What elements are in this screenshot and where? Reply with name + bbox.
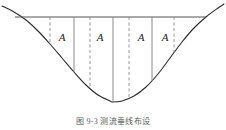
measurement-verticals-group	[50, 17, 174, 102]
figure-caption: 图 9-3 测流垂线布设	[0, 117, 226, 127]
area-label-seg4: A	[158, 32, 172, 43]
figure-container: AAAA 图 9-3 测流垂线布设	[0, 0, 226, 130]
area-label-seg1: A	[55, 32, 69, 43]
area-label-seg2: A	[93, 32, 107, 43]
cross-section-diagram	[0, 0, 226, 118]
area-label-seg3: A	[134, 32, 148, 43]
